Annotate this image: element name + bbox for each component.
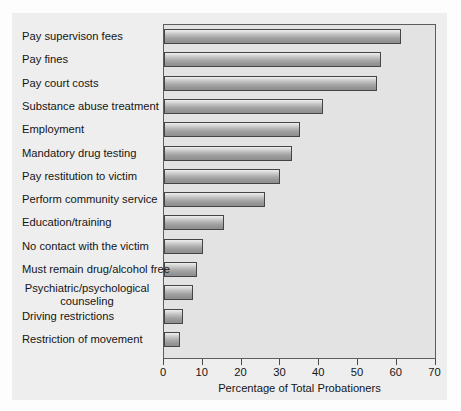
category-label: No contact with the victim xyxy=(22,240,149,253)
x-axis-tick xyxy=(435,359,436,365)
bar xyxy=(164,76,377,91)
x-axis-tick-label: 10 xyxy=(196,366,208,378)
bar xyxy=(164,285,193,300)
category-label: Driving restrictions xyxy=(22,310,114,323)
bar xyxy=(164,29,401,44)
category-label: Employment xyxy=(22,123,84,136)
bar xyxy=(164,122,300,137)
x-axis-tick xyxy=(163,359,164,365)
x-axis-tick-label: 0 xyxy=(160,366,166,378)
category-label: Substance abuse treatment xyxy=(22,100,159,113)
x-axis-tick-label: 20 xyxy=(234,366,246,378)
bar xyxy=(164,332,180,347)
category-label: Must remain drug/alcohol free xyxy=(22,263,170,276)
x-axis-tick xyxy=(279,359,280,365)
bar xyxy=(164,169,280,184)
bar xyxy=(164,52,381,67)
bar xyxy=(164,192,265,207)
category-label: Mandatory drug testing xyxy=(22,147,136,160)
bar xyxy=(164,146,292,161)
x-axis-tick-label: 50 xyxy=(351,366,363,378)
category-label: Psychiatric/psychological counseling xyxy=(18,282,156,307)
x-axis-tick-label: 60 xyxy=(390,366,402,378)
category-label: Education/training xyxy=(22,216,112,229)
x-axis-tick-label: 30 xyxy=(273,366,285,378)
x-axis-tick-label: 40 xyxy=(312,366,324,378)
x-axis-tick xyxy=(202,359,203,365)
plot-area xyxy=(163,24,436,359)
bar-chart-figure: Pay supervison feesPay finesPay court co… xyxy=(0,0,461,411)
bar xyxy=(164,215,224,230)
bar xyxy=(164,99,323,114)
bar xyxy=(164,309,183,324)
category-label: Perform community service xyxy=(22,193,158,206)
x-axis-title: Percentage of Total Probationers xyxy=(163,382,436,394)
bar-series xyxy=(164,25,435,358)
x-axis-tick xyxy=(396,359,397,365)
category-label: Pay supervison fees xyxy=(22,30,123,43)
x-axis-tick xyxy=(318,359,319,365)
x-axis-tick-label: 70 xyxy=(428,366,440,378)
category-label: Restriction of movement xyxy=(22,333,143,346)
category-label: Pay fines xyxy=(22,53,68,66)
x-axis-tick xyxy=(357,359,358,365)
bar xyxy=(164,239,203,254)
category-label: Pay court costs xyxy=(22,77,98,90)
category-label: Pay restitution to victim xyxy=(22,170,137,183)
x-axis-tick xyxy=(241,359,242,365)
